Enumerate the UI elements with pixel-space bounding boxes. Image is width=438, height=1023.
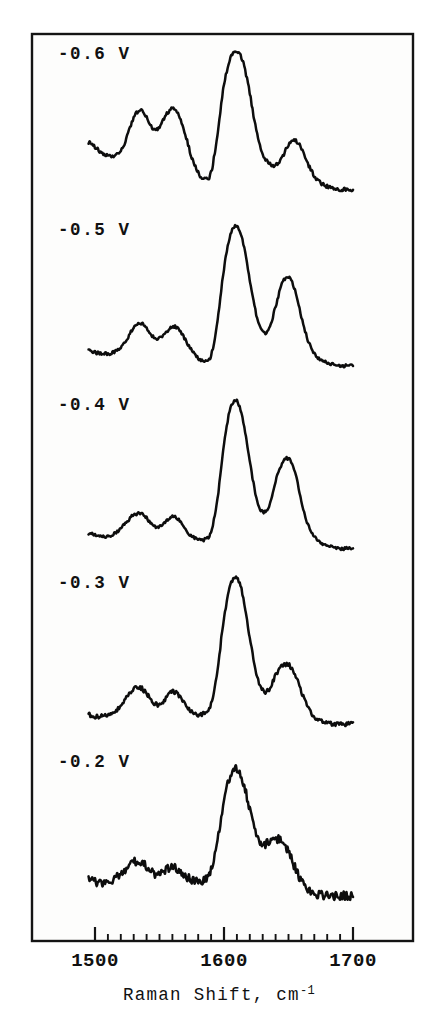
trace-label-04V: -0.4 V bbox=[58, 395, 131, 415]
axis-title-main: Raman Shift, cm bbox=[123, 985, 300, 1005]
x-tick-label: 1500 bbox=[71, 950, 119, 972]
x-tick-label: 1600 bbox=[200, 950, 248, 972]
trace-label-02V: -0.2 V bbox=[58, 752, 131, 772]
raman-spectra-figure: -0.6 V-0.5 V-0.4 V-0.3 V-0.2 V 150016001… bbox=[0, 0, 438, 1023]
trace-label-05V: -0.5 V bbox=[58, 220, 131, 240]
x-axis-tick-labels-group: 150016001700 bbox=[71, 950, 377, 972]
axis-title-exponent: -1 bbox=[300, 984, 315, 998]
x-tick-label: 1700 bbox=[329, 950, 377, 972]
trace-label-06V: -0.6 V bbox=[58, 44, 131, 64]
trace-label-03V: -0.3 V bbox=[58, 573, 131, 593]
x-axis-title: Raman Shift, cm-1 bbox=[123, 984, 315, 1005]
